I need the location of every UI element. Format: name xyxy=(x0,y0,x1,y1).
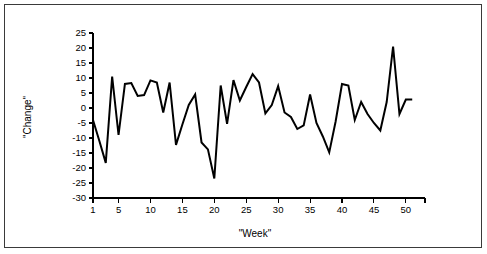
y-tick-label: 0 xyxy=(81,102,86,113)
x-tick-label: 5 xyxy=(116,204,121,215)
chart-plot-area: -30-25-20-15-10-50510152025 151015202530… xyxy=(5,5,483,249)
y-tick-label: 10 xyxy=(75,72,86,83)
x-tick-label: 10 xyxy=(145,204,156,215)
y-tick-label: 5 xyxy=(81,87,86,98)
y-tick-label: -20 xyxy=(72,162,86,173)
y-tick-label: -10 xyxy=(72,132,86,143)
y-tick-label: 15 xyxy=(75,57,86,68)
x-tick-label: 25 xyxy=(241,204,252,215)
line-chart-svg: -30-25-20-15-10-50510152025 151015202530… xyxy=(5,5,483,249)
x-tick-label: 45 xyxy=(369,204,380,215)
x-tick-label: 50 xyxy=(401,204,412,215)
x-tick-label: 1 xyxy=(90,204,95,215)
y-axis-title: "Change" xyxy=(22,95,33,138)
x-axis: 15101520253035404550 xyxy=(90,198,425,215)
x-tick-label: 20 xyxy=(209,204,220,215)
figure-border: -30-25-20-15-10-50510152025 151015202530… xyxy=(4,4,482,248)
x-axis-title: "Week" xyxy=(239,228,272,239)
y-tick-label: -25 xyxy=(72,177,86,188)
y-tick-label: -5 xyxy=(78,117,86,128)
x-tick-label: 35 xyxy=(305,204,316,215)
x-tick-label: 40 xyxy=(337,204,348,215)
change-series-line xyxy=(93,47,412,179)
y-tick-label: -30 xyxy=(72,192,86,203)
y-tick-label: 25 xyxy=(75,27,86,38)
y-tick-label: -15 xyxy=(72,147,86,158)
y-axis: -30-25-20-15-10-50510152025 xyxy=(72,27,93,203)
x-tick-label: 30 xyxy=(273,204,284,215)
x-tick-label: 15 xyxy=(177,204,188,215)
y-tick-label: 20 xyxy=(75,42,86,53)
